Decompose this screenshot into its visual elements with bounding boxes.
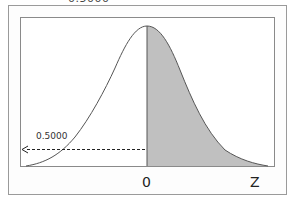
x-tick-z: Z: [250, 174, 260, 190]
normal-curve-plot: [0, 0, 294, 200]
x-tick-zero: 0: [142, 174, 151, 190]
area-annotation: 0.5000: [36, 131, 68, 141]
